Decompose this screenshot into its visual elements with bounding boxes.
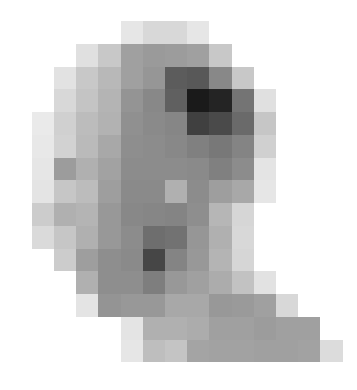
pixel-cell: [187, 135, 209, 158]
pixel-cell: [276, 317, 298, 340]
pixel-cell: [232, 112, 254, 135]
pixel-cell: [187, 249, 209, 271]
pixel-cell: [165, 203, 187, 226]
pixel-cell: [98, 112, 121, 135]
pixel-cell: [121, 21, 143, 44]
pixel-cell: [165, 226, 187, 249]
pixel-cell: [209, 180, 232, 203]
pixel-cell: [187, 317, 209, 340]
pixel-cell: [232, 158, 254, 180]
pixel-cell: [209, 89, 232, 112]
pixel-cell: [76, 67, 98, 89]
pixel-cell: [54, 226, 76, 249]
pixel-cell: [254, 180, 276, 203]
pixel-cell: [232, 317, 254, 340]
pixel-cell: [209, 158, 232, 180]
pixel-cell: [143, 89, 165, 112]
pixel-cell: [165, 21, 187, 44]
pixel-cell: [54, 180, 76, 203]
pixel-cell: [98, 271, 121, 294]
pixel-cell: [298, 317, 320, 340]
pixel-cell: [187, 89, 209, 112]
pixel-cell: [32, 112, 54, 135]
pixel-cell: [76, 112, 98, 135]
pixel-cell: [54, 203, 76, 226]
pixel-cell: [232, 226, 254, 249]
pixel-cell: [54, 89, 76, 112]
pixel-cell: [98, 89, 121, 112]
pixel-cell: [187, 67, 209, 89]
pixel-cell: [121, 180, 143, 203]
pixel-cell: [254, 89, 276, 112]
pixel-cell: [143, 158, 165, 180]
pixel-cell: [76, 158, 98, 180]
pixel-cell: [187, 112, 209, 135]
pixel-cell: [187, 340, 209, 362]
pixel-cell: [209, 294, 232, 317]
pixel-cell: [254, 271, 276, 294]
pixel-cell: [121, 271, 143, 294]
pixel-cell: [32, 135, 54, 158]
pixel-cell: [32, 180, 54, 203]
pixel-cell: [209, 226, 232, 249]
pixel-cell: [121, 226, 143, 249]
pixel-cell: [143, 203, 165, 226]
pixel-cell: [76, 135, 98, 158]
pixel-cell: [121, 112, 143, 135]
pixel-cell: [254, 294, 276, 317]
pixel-cell: [54, 135, 76, 158]
pixel-cell: [165, 67, 187, 89]
pixel-cell: [76, 180, 98, 203]
pixel-cell: [54, 249, 76, 271]
pixel-cell: [254, 317, 276, 340]
pixel-cell: [143, 21, 165, 44]
pixel-cell: [121, 89, 143, 112]
pixelated-image: [0, 0, 357, 390]
pixel-cell: [165, 44, 187, 67]
pixel-cell: [232, 203, 254, 226]
pixel-cell: [165, 340, 187, 362]
pixel-cell: [54, 112, 76, 135]
pixel-cell: [187, 180, 209, 203]
pixel-cell: [276, 294, 298, 317]
pixel-cell: [254, 340, 276, 362]
pixel-cell: [143, 44, 165, 67]
pixel-cell: [209, 135, 232, 158]
pixel-cell: [209, 317, 232, 340]
pixel-cell: [143, 180, 165, 203]
pixel-cell: [121, 135, 143, 158]
pixel-cell: [98, 158, 121, 180]
pixel-cell: [121, 203, 143, 226]
pixel-cell: [209, 271, 232, 294]
pixel-cell: [98, 180, 121, 203]
pixel-cell: [121, 317, 143, 340]
pixel-cell: [187, 158, 209, 180]
pixel-cell: [98, 203, 121, 226]
pixel-cell: [187, 271, 209, 294]
pixel-cell: [121, 249, 143, 271]
pixel-cell: [121, 44, 143, 67]
pixel-cell: [98, 44, 121, 67]
pixel-cell: [143, 294, 165, 317]
pixel-cell: [187, 44, 209, 67]
pixel-cell: [232, 294, 254, 317]
pixel-cell: [98, 294, 121, 317]
pixel-cell: [165, 135, 187, 158]
pixel-cell: [165, 249, 187, 271]
pixel-cell: [143, 135, 165, 158]
pixel-cell: [143, 67, 165, 89]
pixel-cell: [143, 226, 165, 249]
pixel-cell: [254, 135, 276, 158]
pixel-cell: [165, 89, 187, 112]
pixel-cell: [76, 271, 98, 294]
pixel-cell: [98, 67, 121, 89]
pixel-cell: [121, 294, 143, 317]
pixel-cell: [54, 158, 76, 180]
pixel-cell: [32, 158, 54, 180]
pixel-cell: [54, 67, 76, 89]
pixel-cell: [143, 112, 165, 135]
pixel-cell: [187, 294, 209, 317]
pixel-cell: [76, 44, 98, 67]
pixel-cell: [143, 317, 165, 340]
pixel-cell: [121, 340, 143, 362]
